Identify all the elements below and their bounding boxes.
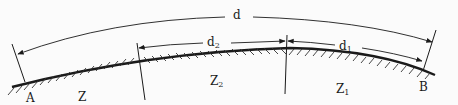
point-b-label: B bbox=[419, 81, 428, 93]
distance-d1-label: d1 bbox=[339, 40, 352, 54]
distance-d2-label: d2 bbox=[207, 36, 220, 50]
zone-z2-label: Z2 bbox=[210, 75, 223, 89]
point-b-extension-line bbox=[423, 30, 436, 71]
distance-d2-arc-left bbox=[139, 43, 203, 48]
earth-surface-curve bbox=[12, 48, 435, 87]
zone-z1-label: Z1 bbox=[336, 83, 349, 97]
distance-d-label: d bbox=[233, 9, 241, 23]
distance-d-arc-left bbox=[18, 17, 225, 54]
distance-d1-arc-left bbox=[288, 41, 335, 45]
zone-z2-z1-boundary-line bbox=[285, 35, 287, 94]
diagram-canvas: d d2 d1 Z Z2 Z1 A B bbox=[0, 0, 458, 105]
zone-z-z2-boundary-line bbox=[137, 43, 145, 100]
point-a-extension-line bbox=[12, 44, 25, 82]
distance-d2-arc-right bbox=[231, 41, 285, 43]
zone-z-label: Z bbox=[78, 91, 86, 105]
diagram-svg bbox=[0, 0, 458, 105]
point-a-label: A bbox=[26, 92, 35, 104]
